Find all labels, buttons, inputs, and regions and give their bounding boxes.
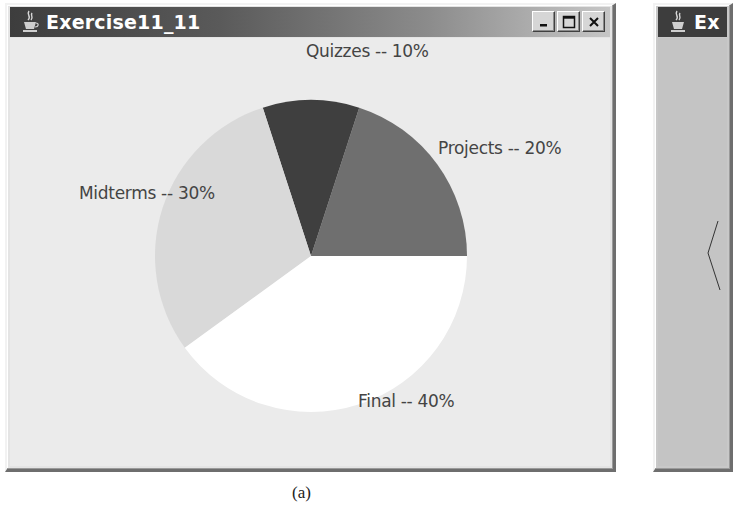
minimize-button[interactable] — [532, 11, 555, 32]
maximize-button[interactable] — [557, 11, 580, 32]
exercise-window: Exercise11_11 Quizzes -- 10% Projects --… — [5, 3, 616, 472]
java-cup-icon — [668, 10, 688, 34]
shape-panel — [658, 38, 727, 466]
title-bar-second[interactable]: Ex — [658, 7, 727, 37]
java-cup-icon — [20, 10, 40, 34]
close-button[interactable] — [582, 11, 605, 32]
minimize-icon — [538, 16, 550, 28]
chart-panel: Quizzes -- 10% Projects -- 20% Midterms … — [10, 38, 610, 466]
maximize-icon — [562, 15, 576, 29]
title-bar[interactable]: Exercise11_11 — [10, 7, 610, 37]
window-title: Exercise11_11 — [46, 11, 200, 33]
pie-label-projects: Projects -- 20% — [438, 138, 561, 158]
pie-label-midterms: Midterms -- 30% — [79, 183, 215, 203]
window-title-second: Ex — [694, 11, 720, 33]
pie-label-final: Final -- 40% — [358, 391, 454, 411]
close-icon — [588, 16, 600, 28]
second-window: Ex — [653, 3, 733, 472]
polygon-shape — [658, 38, 737, 468]
window-controls — [532, 11, 605, 32]
figure-caption: (a) — [292, 483, 311, 503]
pie-chart — [10, 38, 609, 466]
pie-label-quizzes: Quizzes -- 10% — [306, 41, 429, 61]
